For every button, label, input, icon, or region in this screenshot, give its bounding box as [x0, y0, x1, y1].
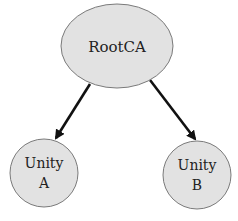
node-rootca-label: RootCA	[88, 38, 146, 56]
node-unity-b-label-line2: B	[192, 177, 202, 193]
tree-diagram: RootCA Unity A Unity B	[0, 0, 238, 221]
diagram-canvas: RootCA Unity A Unity B	[0, 0, 238, 221]
node-unity-a-label-line2: A	[38, 175, 50, 191]
node-unity-a: Unity A	[10, 139, 78, 207]
edge-root-to-unity-a	[56, 84, 90, 138]
node-rootca: RootCA	[61, 4, 173, 88]
node-unity-b: Unity B	[163, 141, 231, 209]
node-unity-b-label-line1: Unity	[178, 157, 217, 173]
edge-root-to-unity-b	[150, 80, 195, 139]
node-unity-a-label-line1: Unity	[25, 155, 64, 171]
